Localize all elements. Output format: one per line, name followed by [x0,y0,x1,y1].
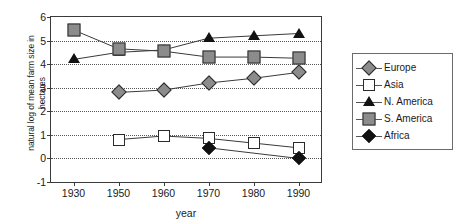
legend: EuropeAsiaN. AmericaS. AmericaAfrica [352,53,453,150]
farm-size-line-chart: natural log of mean farm size in hectare… [0,0,462,224]
y-tick-label: 6 [20,12,46,23]
y-tick-label: 4 [20,59,46,70]
x-tick-label: 1960 [142,188,186,199]
y-tick-mark [47,182,51,183]
y-tick-label: 1 [20,130,46,141]
x-axis-label: year [50,207,322,219]
y-tick-label: 2 [20,106,46,117]
legend-item-label: Africa [382,130,410,141]
legend-item-label: Asia [382,79,403,90]
x-tick-mark [254,182,255,186]
legend-item-label: Europe [382,62,416,73]
x-tick-label: 1980 [232,188,276,199]
y-tick-label: 0 [20,153,46,164]
legend-marker-icon [356,61,382,75]
legend-marker-icon [356,95,382,109]
legend-item-asia[interactable]: Asia [356,76,448,93]
plot-area: -10123456193019501960197019801990 [50,16,322,183]
legend-item-n-america[interactable]: N. America [356,93,448,110]
x-tick-mark [164,182,165,186]
legend-item-europe[interactable]: Europe [356,59,448,76]
legend-item-africa[interactable]: Africa [356,127,448,144]
y-tick-label: 3 [20,83,46,94]
legend-item-label: S. America [382,113,432,124]
y-tick-label: -1 [20,177,46,188]
x-tick-label: 1950 [97,188,141,199]
x-tick-label: 1930 [52,188,96,199]
x-tick-mark [74,182,75,186]
x-tick-mark [119,182,120,186]
legend-marker-icon [356,129,382,143]
x-tick-mark [209,182,210,186]
y-tick-label: 5 [20,36,46,47]
legend-marker-icon [356,112,382,126]
data-layer [51,17,321,182]
x-tick-mark [299,182,300,186]
x-tick-label: 1970 [187,188,231,199]
legend-marker-icon [356,78,382,92]
legend-item-s-america[interactable]: S. America [356,110,448,127]
x-tick-label: 1990 [277,188,321,199]
legend-item-label: N. America [382,96,433,107]
series-line-africa [51,17,321,182]
